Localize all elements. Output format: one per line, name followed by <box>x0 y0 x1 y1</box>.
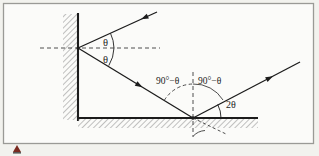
wall-hatching <box>63 14 78 120</box>
ground-angle-label-right: 90°−θ <box>198 77 221 87</box>
deviation-angle-label: 2θ <box>226 100 236 110</box>
ground-angle-label-left: 90°−θ <box>156 77 179 87</box>
wall-angle-label-bottom: θ <box>103 55 108 66</box>
wall-reflection-point <box>77 47 80 50</box>
figure-canvas: θ θ 90°−θ 90°−θ 2θ <box>0 0 319 156</box>
wall-angle-label-top: θ <box>103 38 108 49</box>
ground-hatching <box>78 119 258 128</box>
ground-reflection-point <box>191 116 195 120</box>
red-triangle-marker-base <box>13 152 21 154</box>
